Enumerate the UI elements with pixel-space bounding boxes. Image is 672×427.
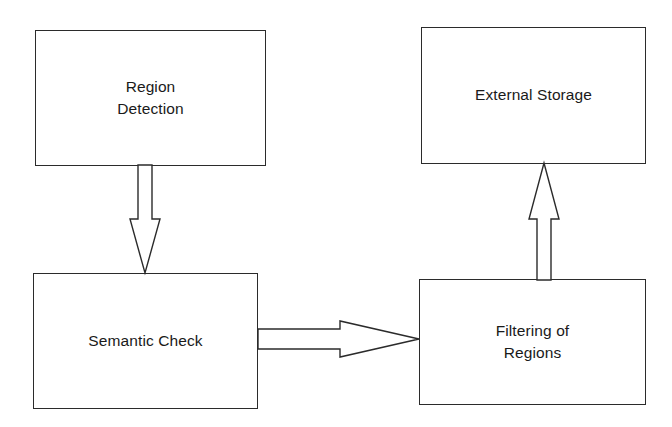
flowchart-canvas: Region Detection External Storage Semant… xyxy=(0,0,672,427)
arrow-down-icon xyxy=(130,165,160,273)
node-semantic-check-label: Semantic Check xyxy=(82,330,208,352)
arrow-down-detection-to-semantic[interactable] xyxy=(126,163,178,277)
node-external-storage-label: External Storage xyxy=(469,84,598,106)
arrow-right-semantic-to-filtering[interactable] xyxy=(256,318,422,360)
node-region-detection[interactable]: Region Detection xyxy=(35,30,266,166)
arrow-up-icon xyxy=(529,163,559,280)
arrow-right-icon xyxy=(258,321,419,357)
node-filtering-regions[interactable]: Filtering of Regions xyxy=(419,279,646,405)
node-filtering-regions-label: Filtering of Regions xyxy=(490,320,576,365)
node-semantic-check[interactable]: Semantic Check xyxy=(33,273,258,409)
arrow-up-filtering-to-storage[interactable] xyxy=(518,161,570,283)
node-region-detection-label: Region Detection xyxy=(111,76,189,121)
node-external-storage[interactable]: External Storage xyxy=(421,27,646,164)
